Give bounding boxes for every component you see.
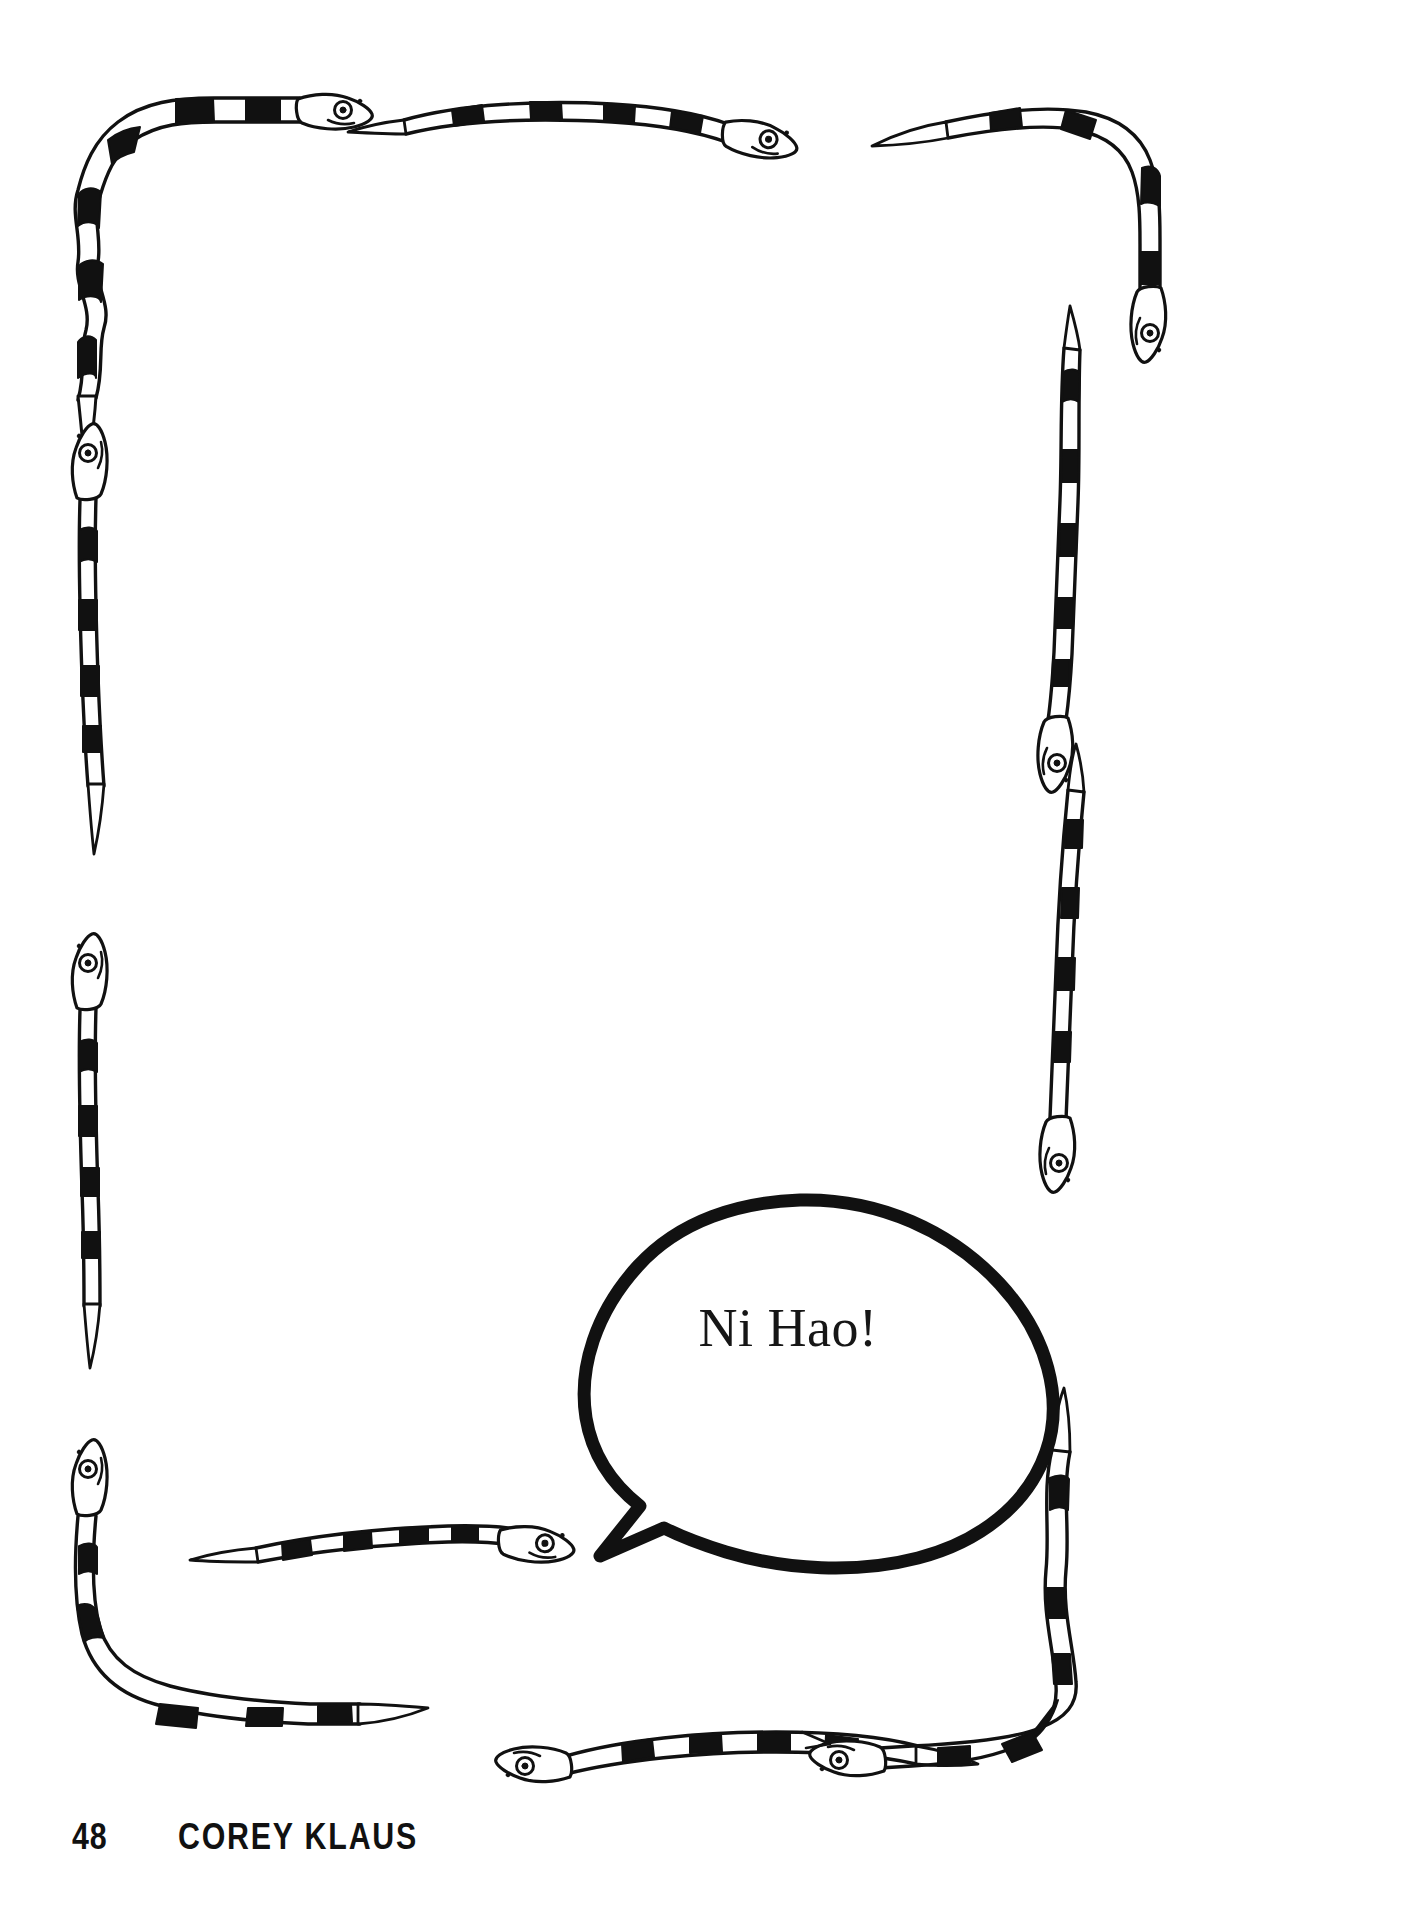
speech-bubble [0, 0, 1403, 1914]
speech-bubble-outline [584, 1200, 1053, 1568]
book-page: Ni Hao! 48 COREY KLAUS [0, 0, 1403, 1914]
page-footer: 48 COREY KLAUS [0, 1794, 1403, 1914]
page-number: 48 [72, 1816, 108, 1858]
running-head-author: COREY KLAUS [178, 1816, 418, 1858]
speech-bubble-text: Ni Hao! [618, 1300, 958, 1357]
